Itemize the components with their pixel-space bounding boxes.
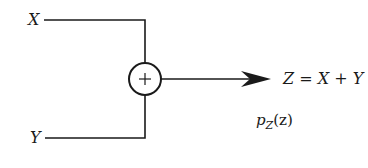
pdf-base: p — [256, 111, 266, 129]
input-x-wire — [44, 20, 145, 63]
summing-junction-icon — [129, 63, 161, 95]
output-arrow-icon — [161, 71, 271, 87]
pdf-argument: (z) — [273, 111, 293, 129]
input-y-label: Y — [30, 130, 41, 146]
output-pdf-label: pZ(z) — [256, 113, 293, 131]
sum-of-random-variables-diagram: X Y Z = X + Y pZ(z) — [0, 0, 368, 168]
input-x-label: X — [28, 12, 39, 28]
input-y-wire — [45, 95, 145, 138]
output-expression-label: Z = X + Y — [283, 71, 363, 87]
